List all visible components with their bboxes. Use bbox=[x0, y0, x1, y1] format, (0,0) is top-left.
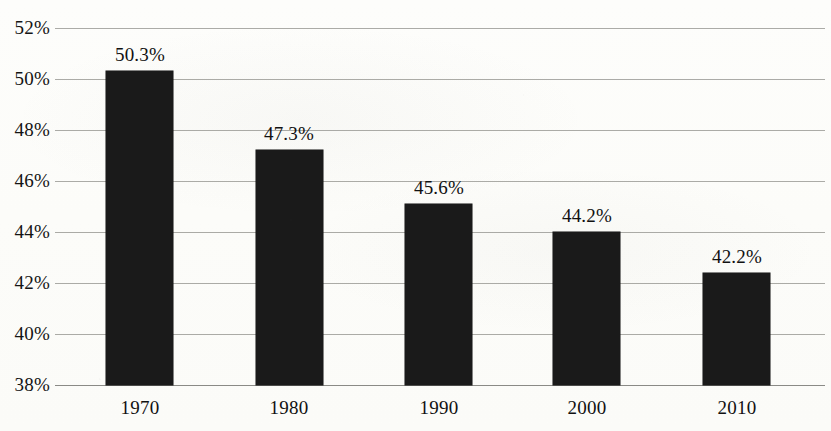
y-axis-tick-label: 52% bbox=[2, 18, 50, 37]
y-axis-tick-label: 46% bbox=[2, 171, 50, 190]
gridline-52 bbox=[55, 28, 825, 29]
plot-area: 52%50%48%46%44%42%40%38% 50.3%47.3%45.6%… bbox=[0, 0, 831, 431]
bar-value-label-2010: 42.2% bbox=[677, 247, 797, 266]
bar-2010 bbox=[703, 273, 770, 385]
bar-value-label-1990: 45.6% bbox=[379, 178, 499, 197]
y-axis-tick-label: 44% bbox=[2, 222, 50, 241]
x-axis-category-label-1980: 1980 bbox=[229, 398, 349, 417]
bar-1980 bbox=[256, 150, 323, 385]
gridline-38 bbox=[55, 385, 825, 386]
bar-value-label-1970: 50.3% bbox=[80, 45, 200, 64]
y-axis-tick-label: 38% bbox=[2, 375, 50, 394]
x-axis-category-label-1970: 1970 bbox=[80, 398, 200, 417]
y-axis-tick-label: 42% bbox=[2, 273, 50, 292]
x-axis-category-label-2010: 2010 bbox=[677, 398, 797, 417]
bar-value-label-1980: 47.3% bbox=[229, 124, 349, 143]
x-axis-category-label-1990: 1990 bbox=[379, 398, 499, 417]
bar-1970 bbox=[106, 71, 173, 385]
y-axis-tick-label: 48% bbox=[2, 120, 50, 139]
bar-2000 bbox=[553, 232, 620, 385]
bar-1990 bbox=[405, 204, 472, 385]
y-axis-tick-label: 50% bbox=[2, 69, 50, 88]
x-axis-category-label-2000: 2000 bbox=[527, 398, 647, 417]
bar-value-label-2000: 44.2% bbox=[527, 206, 647, 225]
y-axis-tick-label: 40% bbox=[2, 324, 50, 343]
bar-chart: 52%50%48%46%44%42%40%38% 50.3%47.3%45.6%… bbox=[0, 0, 831, 431]
